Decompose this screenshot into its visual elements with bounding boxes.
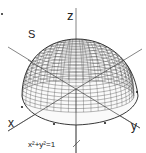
z-axis-label: z [67, 8, 74, 23]
hemisphere-diagram: z S x y x²+y²=1 [0, 0, 146, 153]
boundary-pointer [73, 140, 80, 147]
diagram-canvas: z S x y x²+y²=1 [0, 0, 146, 153]
boundary-equation: x²+y²=1 [28, 140, 56, 149]
surface-label: S [28, 28, 35, 40]
x-axis-label: x [8, 116, 14, 130]
y-axis-label: y [131, 119, 137, 133]
